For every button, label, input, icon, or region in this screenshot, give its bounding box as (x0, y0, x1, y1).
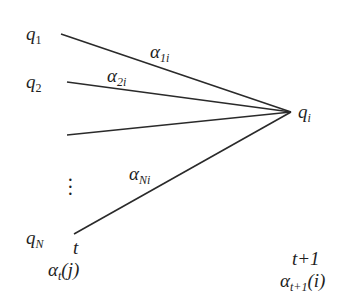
state-q1: q1 (26, 24, 42, 46)
edge-label-aNi: αNi (129, 164, 150, 186)
forward-var-left: αt(j) (48, 260, 79, 282)
edge-label-a2i: α2i (107, 66, 126, 88)
forward-var-right: αt+1(i) (280, 271, 325, 293)
time-label-t-plus-1: t+1 (292, 249, 320, 268)
ellipsis-vertical: ··· (67, 177, 74, 198)
edge-q1-qi (61, 34, 291, 112)
time-label-t: t (73, 238, 78, 257)
edge-label-a1i: α1i (150, 42, 169, 64)
state-qi: qi (298, 102, 311, 124)
state-q2: q2 (26, 72, 42, 94)
state-qN: qN (26, 228, 44, 250)
edge-q2-qi (67, 82, 291, 112)
